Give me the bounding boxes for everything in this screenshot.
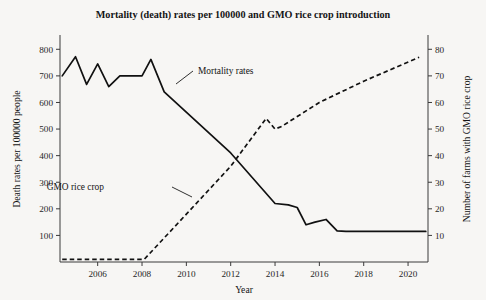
x-tick-label: 2012 (222, 269, 241, 279)
y-tick-label: 500 (39, 124, 53, 134)
y-tick-label: 800 (39, 45, 53, 55)
x-tick-label: 2006 (88, 269, 107, 279)
y2-tick-label: 20 (435, 204, 445, 214)
series-annotation-label: Mortality rates (198, 66, 254, 76)
y-tick-label: 600 (39, 98, 53, 108)
chart-title: Mortality (death) rates per 100000 and G… (96, 9, 391, 21)
y2-tick-label: 30 (435, 178, 445, 188)
y-tick-label: 200 (39, 204, 53, 214)
y2-tick-label: 40 (435, 151, 445, 161)
x-tick-label: 2010 (177, 269, 196, 279)
y2-tick-label: 80 (435, 45, 445, 55)
y-tick-label: 100 (39, 231, 53, 241)
y2-axis-title: Number of farms with GMO rice crop (461, 76, 472, 223)
y2-tick-label: 70 (435, 71, 445, 81)
x-tick-label: 2020 (399, 269, 418, 279)
series-annotation-label: GMO rice crop (47, 182, 105, 192)
mortality-gmo-chart: Mortality (death) rates per 100000 and G… (0, 0, 486, 300)
x-tick-label: 2008 (133, 269, 152, 279)
y2-tick-label: 50 (435, 124, 445, 134)
x-tick-label: 2016 (310, 269, 329, 279)
y2-tick-label: 10 (435, 231, 445, 241)
x-tick-label: 2014 (266, 269, 285, 279)
x-axis-title: Year (235, 284, 253, 295)
y2-tick-label: 60 (435, 98, 445, 108)
y-tick-label: 700 (39, 71, 53, 81)
y-axis-title: Death rates per 100000 people (11, 90, 22, 207)
y-tick-label: 400 (39, 151, 53, 161)
x-tick-label: 2018 (355, 269, 374, 279)
